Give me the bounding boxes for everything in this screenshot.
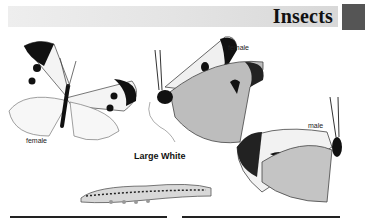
divider-right xyxy=(182,216,340,218)
butterfly-female-open-illustration xyxy=(4,36,144,146)
label-female-2: female xyxy=(228,44,249,51)
page-title: Insects xyxy=(273,5,333,27)
divider-left xyxy=(10,216,167,218)
butterfly-male-side-illustration xyxy=(232,92,362,207)
caterpillar-illustration xyxy=(76,176,216,206)
label-female-1: female xyxy=(26,137,47,144)
section-color-block xyxy=(342,4,365,30)
label-male: male xyxy=(308,122,323,129)
species-caption: Large White xyxy=(134,151,186,161)
